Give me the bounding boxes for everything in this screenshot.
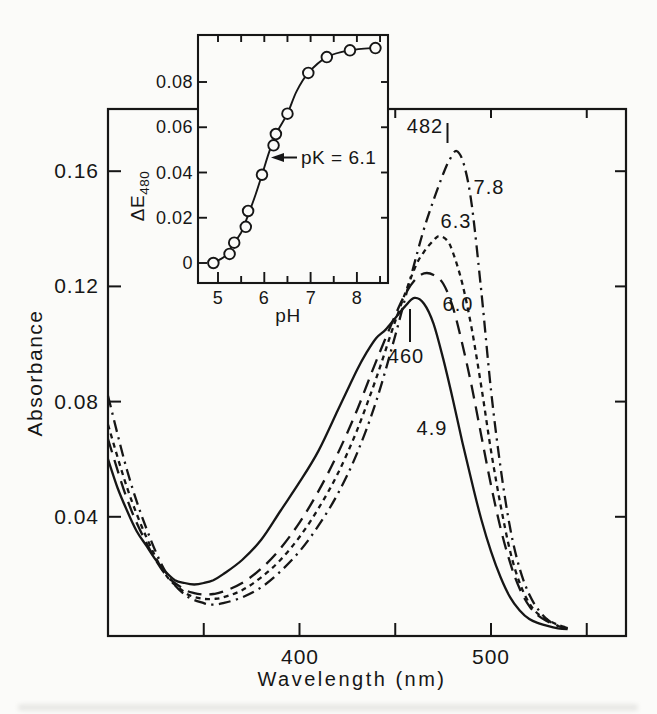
inset-x-tick-label-8: 8 (352, 288, 363, 308)
inset-y-tick-label-004: 0.04 (156, 163, 193, 183)
data-point-marker (271, 129, 282, 140)
absorption-spectra-figure: 0.16 0.12 0.08 0.04 400 500 Absorbance W… (0, 0, 657, 714)
curve-label-ph-4-9: 4.9 (417, 417, 448, 439)
peak-label-460: 460 (388, 345, 424, 367)
inset-y-tick-label-006: 0.06 (156, 117, 193, 137)
pk-annotation: pK = 6.1 (301, 147, 376, 168)
peak-label-482: 482 (407, 115, 443, 137)
inset-y-tick-label-008: 0.08 (156, 72, 193, 92)
inset-y-tick-label-0: 0 (182, 253, 193, 273)
data-point-marker (322, 52, 333, 63)
inset-x-tick-label-7: 7 (306, 288, 317, 308)
inset-x-tick-label-6: 6 (259, 288, 270, 308)
inset-x-tick-label-5: 5 (213, 288, 224, 308)
x-tick-label-400: 400 (281, 645, 319, 668)
scanned-figure-page: 0.16 0.12 0.08 0.04 400 500 Absorbance W… (0, 0, 657, 714)
y-tick-label-012: 0.12 (54, 274, 99, 297)
data-point-marker (345, 45, 356, 56)
data-point-marker (224, 249, 235, 260)
y-tick-label-008: 0.08 (54, 390, 99, 413)
partial-caption-smudge (18, 704, 638, 711)
data-point-marker (257, 169, 268, 180)
data-point-marker (370, 43, 381, 54)
data-point-marker (243, 206, 254, 217)
data-point-marker (240, 222, 251, 233)
data-point-marker (282, 108, 293, 119)
inset-y-tick-label-002: 0.02 (156, 208, 193, 228)
data-point-marker (229, 237, 240, 248)
curve-label-ph-7-8: 7.8 (474, 176, 505, 198)
x-axis-title: Wavelength (nm) (257, 668, 446, 690)
curve-label-ph-6-3: 6.3 (441, 210, 472, 232)
y-axis-title: Absorbance (23, 309, 46, 436)
spectrum-curve-ph-4-9 (108, 298, 568, 629)
y-tick-label-016: 0.16 (54, 159, 99, 182)
y-tick-label-004: 0.04 (54, 505, 99, 528)
data-point-marker (303, 68, 314, 79)
inset-x-axis-title: pH (275, 305, 300, 326)
curve-label-ph-6-0: 6.0 (443, 293, 474, 315)
data-point-marker (208, 258, 219, 269)
inset-y-axis-title: ΔE480 (127, 171, 152, 221)
spectrum-curve-ph-6-3 (108, 236, 568, 628)
data-point-marker (268, 140, 279, 151)
x-tick-label-500: 500 (472, 645, 510, 668)
